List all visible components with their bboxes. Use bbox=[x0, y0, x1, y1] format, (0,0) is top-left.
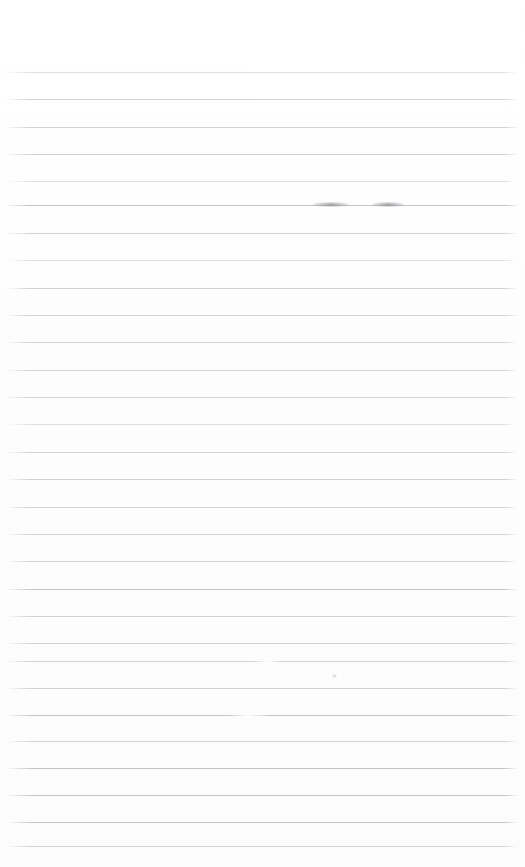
scanned-page bbox=[0, 0, 525, 867]
ruled-line bbox=[5, 452, 518, 453]
ruled-line bbox=[5, 99, 518, 100]
ruled-line bbox=[5, 288, 518, 289]
ruled-line bbox=[5, 342, 518, 343]
ruled-line bbox=[4, 127, 519, 128]
ruled-line bbox=[4, 507, 518, 508]
ruled-line bbox=[6, 846, 517, 847]
ruled-line bbox=[6, 741, 518, 742]
ruled-line bbox=[6, 661, 518, 662]
ruled-line bbox=[5, 768, 518, 769]
ruled-line bbox=[5, 688, 518, 689]
ruled-line bbox=[4, 205, 519, 206]
ruled-line bbox=[6, 424, 517, 425]
ruled-line bbox=[5, 154, 518, 155]
ruled-line bbox=[5, 616, 519, 617]
ruled-line bbox=[6, 181, 517, 182]
ruled-line bbox=[5, 479, 519, 480]
ruled-line bbox=[5, 795, 519, 796]
ruled-line bbox=[5, 561, 518, 562]
ruled-line bbox=[5, 715, 519, 716]
ruled-line bbox=[4, 397, 518, 398]
ruled-line bbox=[5, 643, 518, 644]
ruled-line bbox=[5, 534, 519, 535]
ruled-line bbox=[6, 822, 518, 823]
ruled-line bbox=[5, 233, 518, 234]
ruled-line bbox=[5, 589, 518, 590]
paper-texture bbox=[0, 0, 525, 867]
ruled-line bbox=[6, 72, 517, 73]
ruled-line bbox=[4, 315, 519, 316]
scan-speck bbox=[332, 674, 337, 678]
ruled-line bbox=[5, 370, 518, 371]
ruled-line bbox=[6, 260, 517, 261]
